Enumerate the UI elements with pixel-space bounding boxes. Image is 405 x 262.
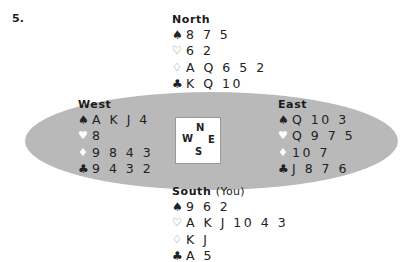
south-diamonds: K J xyxy=(186,232,209,248)
north-diamonds-row: ♢ A Q 6 5 2 xyxy=(172,60,267,76)
east-hearts-row: ♥ Q 9 7 5 xyxy=(278,128,355,144)
south-clubs-row: ♣ A 5 xyxy=(172,248,288,262)
north-spades: 8 7 5 xyxy=(186,27,230,43)
spade-icon: ♠ xyxy=(278,112,292,128)
south-title-you: (You) xyxy=(216,185,245,198)
south-clubs: A 5 xyxy=(186,248,214,262)
south-hand: South (You) ♠ 9 6 2 ♡ A K J 10 4 3 ♢ K J… xyxy=(172,185,288,262)
west-diamonds-row: ♦ 9 8 4 3 xyxy=(78,145,153,161)
west-clubs: 9 4 3 2 xyxy=(92,161,153,177)
compass-north-label: N xyxy=(196,122,204,133)
compass-west-label: W xyxy=(182,133,193,144)
diamond-icon: ♢ xyxy=(172,232,186,248)
west-hand: West ♠ A K J 4 ♥ 8 ♦ 9 8 4 3 ♣ 9 4 3 2 xyxy=(78,98,153,177)
compass-south-label: S xyxy=(195,146,202,157)
east-clubs: J 8 7 6 xyxy=(292,161,349,177)
south-spades-row: ♠ 9 6 2 xyxy=(172,199,288,215)
west-diamonds: 9 8 4 3 xyxy=(92,145,153,161)
heart-icon: ♥ xyxy=(278,128,292,144)
spade-icon: ♠ xyxy=(78,112,92,128)
east-diamonds-row: ♦ 10 7 xyxy=(278,145,355,161)
north-hearts-row: ♡ 6 2 xyxy=(172,43,267,59)
south-spades: 9 6 2 xyxy=(186,199,230,215)
north-hand: North ♠ 8 7 5 ♡ 6 2 ♢ A Q 6 5 2 ♣ K Q 10 xyxy=(172,13,267,92)
north-clubs: K Q 10 xyxy=(186,76,243,92)
club-icon: ♣ xyxy=(78,161,92,177)
west-hearts-row: ♥ 8 xyxy=(78,128,153,144)
west-title: West xyxy=(78,98,153,112)
club-icon: ♣ xyxy=(172,248,186,262)
spade-icon: ♠ xyxy=(172,199,186,215)
south-diamonds-row: ♢ K J xyxy=(172,232,288,248)
diamond-icon: ♦ xyxy=(78,145,92,161)
east-hand: East ♠ Q 10 3 ♥ Q 9 7 5 ♦ 10 7 ♣ J 8 7 6 xyxy=(278,98,355,177)
north-diamonds: A Q 6 5 2 xyxy=(186,60,267,76)
club-icon: ♣ xyxy=(278,161,292,177)
south-title: South (You) xyxy=(172,185,288,199)
heart-icon: ♡ xyxy=(172,43,186,59)
north-clubs-row: ♣ K Q 10 xyxy=(172,76,267,92)
east-hearts: Q 9 7 5 xyxy=(292,128,355,144)
west-clubs-row: ♣ 9 4 3 2 xyxy=(78,161,153,177)
compass-box: N W E S xyxy=(175,117,221,164)
east-title: East xyxy=(278,98,355,112)
heart-icon: ♡ xyxy=(172,215,186,231)
north-hearts: 6 2 xyxy=(186,43,213,59)
east-diamonds: 10 7 xyxy=(292,145,330,161)
spade-icon: ♠ xyxy=(172,27,186,43)
east-clubs-row: ♣ J 8 7 6 xyxy=(278,161,355,177)
north-title: North xyxy=(172,13,267,27)
west-hearts: 8 xyxy=(92,128,102,144)
club-icon: ♣ xyxy=(172,76,186,92)
east-spades: Q 10 3 xyxy=(292,112,349,128)
diamond-icon: ♦ xyxy=(278,145,292,161)
south-hearts: A K J 10 4 3 xyxy=(186,215,288,231)
heart-icon: ♥ xyxy=(78,128,92,144)
compass-east-label: E xyxy=(208,134,215,145)
east-spades-row: ♠ Q 10 3 xyxy=(278,112,355,128)
north-spades-row: ♠ 8 7 5 xyxy=(172,27,267,43)
south-title-name: South xyxy=(172,185,211,198)
west-spades-row: ♠ A K J 4 xyxy=(78,112,153,128)
south-hearts-row: ♡ A K J 10 4 3 xyxy=(172,215,288,231)
problem-number: 5. xyxy=(12,12,24,25)
diamond-icon: ♢ xyxy=(172,60,186,76)
west-spades: A K J 4 xyxy=(92,112,150,128)
